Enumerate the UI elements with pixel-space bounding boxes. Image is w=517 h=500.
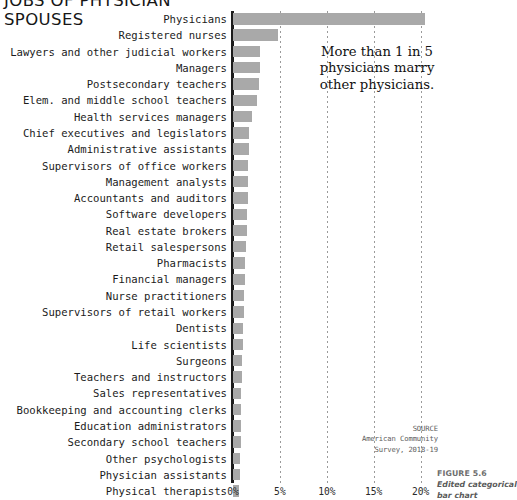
category-label: Supervisors of retail workers <box>42 305 227 319</box>
x-tick-label: 0% <box>227 486 239 497</box>
bar-row: Bookkeeping and accounting clerks <box>0 402 515 418</box>
x-tick-label: 5% <box>274 486 286 497</box>
category-label: Nurse practitioners <box>106 289 227 303</box>
bar-row: Management analysts <box>0 174 515 190</box>
bar <box>233 78 259 89</box>
category-label: Pharmacists <box>157 256 227 270</box>
source-heading: SOURCE <box>330 424 438 434</box>
bar-row: Software developers <box>0 206 515 222</box>
category-label: Secondary school teachers <box>68 435 227 449</box>
bar <box>233 355 242 366</box>
bar <box>233 241 246 252</box>
figure-number: FIGURE 5.6 <box>437 469 487 478</box>
bar-row: Real estate brokers <box>0 223 515 239</box>
bar <box>233 29 278 40</box>
source-note: SOURCE American Community Survey, 2018-1… <box>330 424 438 455</box>
bar <box>233 192 248 203</box>
category-label: Management analysts <box>106 175 227 189</box>
category-label: Teachers and instructors <box>74 370 227 384</box>
bar <box>233 274 245 285</box>
x-tick-label: 20% <box>412 486 429 497</box>
category-label: Other psychologists <box>106 452 227 466</box>
category-label: Physician assistants <box>99 468 227 482</box>
category-label: Administrative assistants <box>68 142 227 156</box>
category-label: Chief executives and legislators <box>23 126 227 140</box>
category-label: Lawyers and other judicial workers <box>10 45 227 59</box>
bar <box>233 323 243 334</box>
category-label: Elem. and middle school teachers <box>23 93 227 107</box>
bar <box>233 176 248 187</box>
figure-caption: FIGURE 5.6 Edited categorical bar chart <box>437 468 517 500</box>
bar <box>233 404 241 415</box>
category-label: Health services managers <box>74 110 227 124</box>
bar-row: Chief executives and legislators <box>0 125 515 141</box>
category-label: Managers <box>176 61 227 75</box>
bar-row: Pharmacists <box>0 255 515 271</box>
bar <box>233 143 249 154</box>
figure-caption-text: Edited categorical bar chart <box>437 480 517 500</box>
bar <box>233 339 243 350</box>
bar-row: Administrative assistants <box>0 141 515 157</box>
category-label: Accountants and auditors <box>74 191 227 205</box>
category-label: Life scientists <box>131 338 227 352</box>
category-label: Postsecondary teachers <box>87 77 227 91</box>
bar-row: Supervisors of office workers <box>0 158 515 174</box>
bar <box>233 306 244 317</box>
chart-annotation: More than 1 in 5 physicians marry other … <box>316 44 438 93</box>
x-tick-label: 15% <box>365 486 382 497</box>
category-label: Bookkeeping and accounting clerks <box>17 403 227 417</box>
bar <box>233 111 252 122</box>
category-label: Real estate brokers <box>106 224 227 238</box>
source-line-2: Survey, 2018-19 <box>375 445 438 454</box>
bar-row: Nurse practitioners <box>0 288 515 304</box>
category-label: Software developers <box>106 207 227 221</box>
bar <box>233 127 249 138</box>
bar <box>233 62 260 73</box>
bar <box>233 225 247 236</box>
bar <box>233 209 247 220</box>
category-label: Education administrators <box>74 419 227 433</box>
bar <box>233 453 240 464</box>
bar <box>233 420 241 431</box>
bar-row: Physicians <box>0 11 515 27</box>
bar <box>233 46 260 57</box>
bar <box>233 388 241 399</box>
bar-row: Life scientists <box>0 337 515 353</box>
bar-row: Dentists <box>0 320 515 336</box>
bar-row: Surgeons <box>0 353 515 369</box>
bar <box>233 13 425 24</box>
category-label: Dentists <box>176 321 227 335</box>
category-label: Physicians <box>163 12 227 26</box>
bar-row: Supervisors of retail workers <box>0 304 515 320</box>
bar <box>233 371 242 382</box>
bar-row: Elem. and middle school teachers <box>0 92 515 108</box>
bar-row: Health services managers <box>0 109 515 125</box>
category-label: Registered nurses <box>119 28 227 42</box>
source-line-1: American Community <box>362 434 438 443</box>
bar <box>233 469 240 480</box>
bar-row: Teachers and instructors <box>0 369 515 385</box>
category-label: Sales representatives <box>93 386 227 400</box>
bar-row: Accountants and auditors <box>0 190 515 206</box>
x-tick-label: 10% <box>318 486 335 497</box>
bar-row: Retail salespersons <box>0 239 515 255</box>
bar <box>233 436 241 447</box>
bar-row: Financial managers <box>0 271 515 287</box>
category-label: Surgeons <box>176 354 227 368</box>
category-label: Retail salespersons <box>106 240 227 254</box>
bar <box>233 290 244 301</box>
bar <box>233 95 257 106</box>
category-label: Financial managers <box>112 272 227 286</box>
bar-row: Registered nurses <box>0 27 515 43</box>
category-label: Supervisors of office workers <box>42 159 227 173</box>
bar-row: Sales representatives <box>0 385 515 401</box>
category-label: Physical therapists <box>106 484 227 498</box>
bar <box>233 257 245 268</box>
bar <box>233 160 248 171</box>
